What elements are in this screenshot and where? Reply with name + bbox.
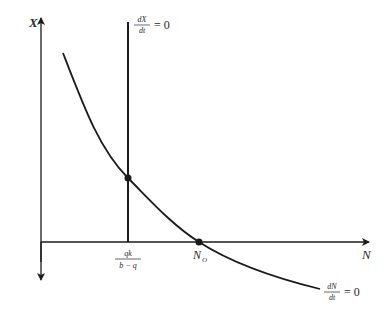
n0-point	[196, 239, 203, 246]
svg-text:= 0: = 0	[344, 285, 360, 299]
svg-text:O: O	[202, 256, 207, 264]
y-axis-label: X	[28, 15, 38, 30]
vertical-intercept-label: qk b − q	[115, 249, 141, 270]
curve-isocline	[63, 53, 320, 289]
equilibrium-point	[125, 175, 132, 182]
svg-text:= 0: = 0	[154, 18, 170, 32]
svg-text:b − q: b − q	[119, 261, 136, 270]
svg-text:dt: dt	[329, 293, 336, 302]
n0-label: N O	[192, 248, 207, 264]
phase-plane-diagram: X N dX dt = 0 qk b − q N O dN dt = 0	[0, 0, 384, 324]
svg-text:dX: dX	[138, 15, 148, 24]
svg-text:qk: qk	[124, 249, 132, 258]
x-axis-label: N	[361, 247, 372, 262]
vertical-isocline-label: dX dt = 0	[134, 15, 170, 35]
svg-text:dN: dN	[327, 282, 337, 291]
curve-isocline-label: dN dt = 0	[324, 282, 360, 302]
svg-text:dt: dt	[139, 26, 146, 35]
svg-text:N: N	[192, 248, 202, 262]
